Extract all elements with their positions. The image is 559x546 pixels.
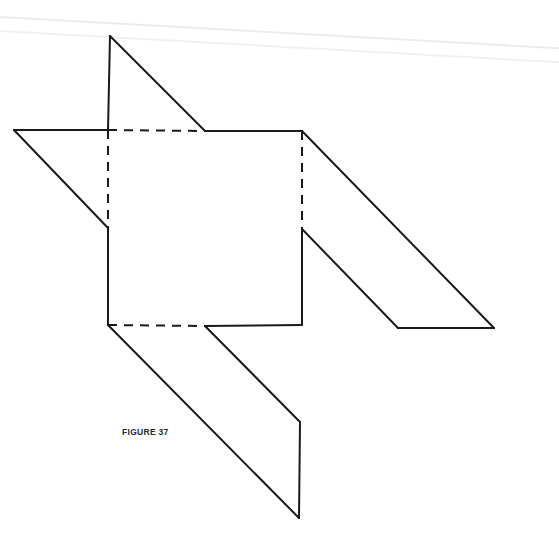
bottom-flap-vertical: [299, 422, 300, 518]
right-flap-outer-diagonal: [302, 131, 494, 328]
fold-lines: [108, 130, 302, 326]
left-flap-diagonal: [14, 130, 108, 228]
top-flap-vertical: [108, 36, 110, 130]
right-flap-inner-diagonal: [302, 229, 398, 328]
top-flap-diagonal: [110, 36, 205, 131]
bottom-flap-inner-diagonal: [205, 326, 300, 422]
bottom-flap-outer-diagonal: [108, 325, 299, 518]
solid-edges: [14, 36, 494, 518]
top-fold: [108, 130, 205, 131]
bottom-square-edge: [205, 325, 302, 326]
figure-caption: FIGURE 37: [122, 427, 169, 437]
bottom-fold: [108, 325, 205, 326]
